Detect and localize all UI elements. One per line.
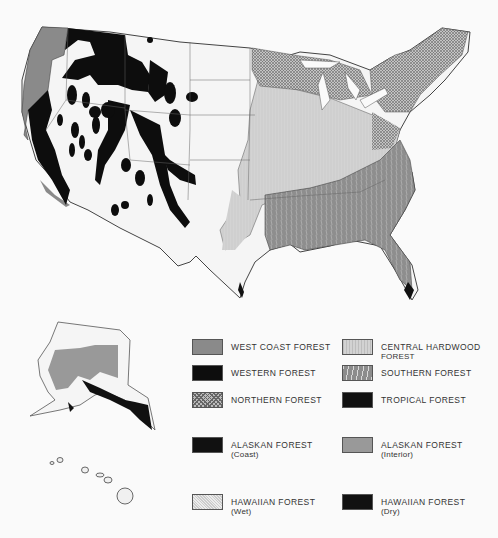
alaska-map — [30, 322, 155, 430]
alaskan-interior-swatch — [342, 437, 373, 453]
legend-label: SOUTHERN FOREST — [381, 368, 472, 378]
legend-item-west-coast: WEST COAST FOREST — [192, 339, 331, 355]
legend-label: HAWAIIAN FOREST — [381, 497, 465, 507]
tropical-swatch — [342, 392, 373, 408]
legend-item-alaskan-interior: ALASKAN FOREST(Interior) — [342, 437, 463, 460]
contiguous-us-map — [22, 27, 470, 300]
west-coast-swatch — [192, 339, 223, 355]
legend-item-alaskan-coast: ALASKAN FOREST(Coast) — [192, 437, 313, 460]
legend-item-hawaiian-dry: HAWAIIAN FOREST(Dry) — [342, 494, 465, 517]
legend-label: NORTHERN FOREST — [231, 395, 322, 405]
legend-item-central-hardwood: CENTRAL HARDWOODFOREST — [342, 339, 481, 362]
legend-item-southern: SOUTHERN FOREST — [342, 365, 472, 381]
legend-label: HAWAIIAN FOREST — [231, 497, 315, 507]
hawaiian-dry-swatch — [342, 494, 373, 510]
legend-sublabel: (Dry) — [381, 507, 465, 517]
legend-item-tropical: TROPICAL FOREST — [342, 392, 466, 408]
alaskan-coast-swatch — [192, 437, 223, 453]
southern-swatch — [342, 365, 373, 381]
hawaiian-wet-swatch — [192, 494, 223, 510]
legend-label: WEST COAST FOREST — [231, 342, 331, 352]
legend-label: ALASKAN FOREST — [231, 440, 313, 450]
legend-label: CENTRAL HARDWOOD — [381, 342, 481, 352]
northern-swatch — [192, 392, 223, 408]
legend-label: WESTERN FOREST — [231, 368, 316, 378]
legend-item-northern: NORTHERN FOREST — [192, 392, 322, 408]
western-swatch — [192, 365, 223, 381]
legend-item-western: WESTERN FOREST — [192, 365, 316, 381]
legend-sublabel: (Interior) — [381, 450, 463, 460]
legend-label: TROPICAL FOREST — [381, 395, 466, 405]
legend-sublabel: (Wet) — [231, 507, 315, 517]
legend-item-hawaiian-wet: HAWAIIAN FOREST(Wet) — [192, 494, 315, 517]
legend-sublabel: FOREST — [381, 352, 481, 362]
legend-sublabel: (Coast) — [231, 450, 313, 460]
central-hardwood-swatch — [342, 339, 373, 355]
hawaii-map — [50, 458, 133, 505]
legend-label: ALASKAN FOREST — [381, 440, 463, 450]
